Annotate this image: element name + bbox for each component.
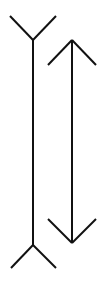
fins-out-line-top-fin [33,16,56,40]
double-arrow-line-bottom-fin [48,219,72,243]
fins-out-line-bottom-fin [33,245,56,268]
diagram-svg [0,0,104,281]
fins-out-line-bottom-fin [11,245,33,268]
double-arrow-line-top-fin [48,40,72,65]
fins-out-figure [10,16,56,268]
fins-out-line-top-fin [10,16,33,40]
muller-lyer-diagram [0,0,104,281]
double-arrow-line-bottom-fin [72,219,96,243]
arrow-figure [48,40,96,243]
double-arrow-line-top-fin [72,40,96,65]
